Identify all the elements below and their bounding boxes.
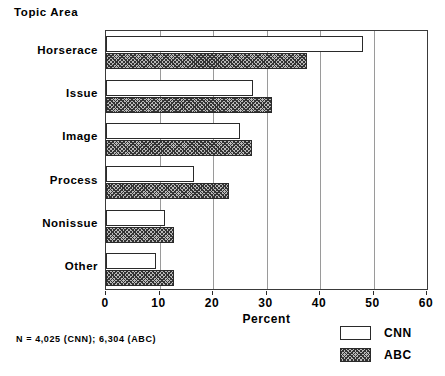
category-label-horserace: Horserace	[0, 44, 98, 56]
legend-label-abc: ABC	[384, 348, 412, 362]
category-label-nonissue: Nonissue	[0, 217, 98, 229]
x-axis-ticks: 0102030405060	[105, 291, 428, 309]
chart-title: Topic Area	[14, 6, 78, 18]
category-label-image: Image	[0, 130, 98, 142]
bar-cnn-nonissue	[106, 210, 165, 226]
bar-abc-issue	[106, 97, 272, 113]
x-tick-mark-0	[105, 291, 106, 295]
gridline-x-20	[213, 31, 214, 289]
bar-abc-other	[106, 270, 174, 286]
gridline-x-40	[320, 31, 321, 289]
bar-abc-nonissue	[106, 227, 174, 243]
gridline-x-30	[267, 31, 268, 289]
bar-cnn-horserace	[106, 36, 363, 52]
x-tick-mark-50	[373, 291, 374, 295]
x-tick-label-10: 10	[151, 296, 165, 310]
x-tick-label-0: 0	[101, 296, 108, 310]
x-tick-label-60: 60	[419, 296, 433, 310]
bar-abc-image	[106, 140, 252, 156]
gridline-x-50	[374, 31, 375, 289]
gridline-x-10	[160, 31, 161, 289]
bar-cnn-process	[106, 166, 194, 182]
x-tick-mark-40	[319, 291, 320, 295]
legend-item-abc: ABC	[340, 344, 440, 366]
legend-swatch-cnn	[340, 326, 371, 340]
legend-item-cnn: CNN	[340, 322, 440, 344]
x-tick-mark-20	[212, 291, 213, 295]
x-tick-label-50: 50	[365, 296, 379, 310]
category-axis-labels: HorseraceIssueImageProcessNonissueOther	[0, 30, 98, 290]
category-label-other: Other	[0, 260, 98, 272]
x-tick-mark-10	[159, 291, 160, 295]
x-tick-mark-30	[266, 291, 267, 295]
bar-cnn-other	[106, 253, 156, 269]
legend-swatch-abc	[340, 348, 371, 362]
bar-chart: Topic Area HorseraceIssueImageProcessNon…	[0, 0, 445, 376]
legend: CNNABC	[340, 322, 440, 366]
footnote: N = 4,025 (CNN); 6,304 (ABC)	[16, 334, 156, 344]
plot-area	[105, 30, 428, 290]
bar-cnn-issue	[106, 80, 253, 96]
bar-abc-horserace	[106, 53, 307, 69]
bar-cnn-image	[106, 123, 240, 139]
legend-label-cnn: CNN	[384, 326, 412, 340]
x-tick-label-30: 30	[258, 296, 272, 310]
category-label-issue: Issue	[0, 87, 98, 99]
x-tick-mark-60	[426, 291, 427, 295]
x-tick-label-40: 40	[312, 296, 326, 310]
category-label-process: Process	[0, 174, 98, 186]
x-tick-label-20: 20	[205, 296, 219, 310]
bar-abc-process	[106, 183, 229, 199]
